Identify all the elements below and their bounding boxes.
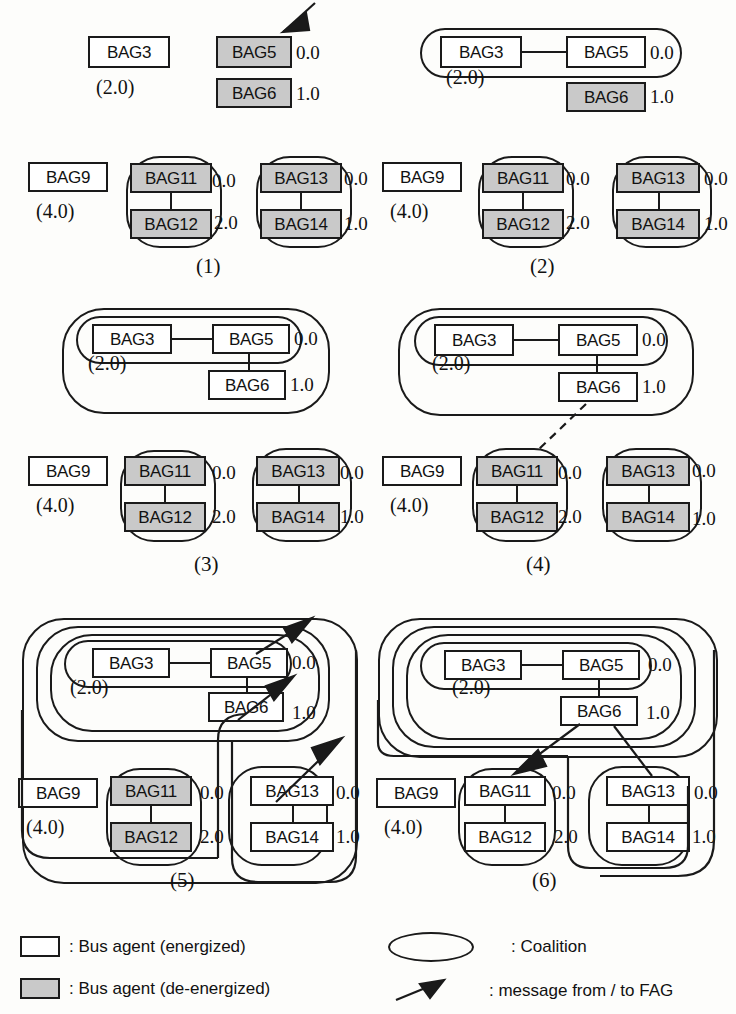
value-bag12: 2.0 bbox=[212, 506, 236, 528]
link-bag3-bag5 bbox=[522, 51, 566, 53]
legend-label-deenergized: : Bus agent (de-energized) bbox=[69, 979, 270, 999]
panel-2: BAG3 (2.0) BAG5 0.0 BAG6 1.0 BAG9 (4.0) … bbox=[368, 0, 736, 286]
panel-label-3: (3) bbox=[194, 552, 219, 577]
coalition-wrap-overlay-6 bbox=[368, 590, 736, 900]
panel-6: BAG3 (2.0) BAG5 0.0 BAG6 1.0 BAG9 (4.0) … bbox=[368, 590, 736, 900]
legend-row-deenergized: : Bus agent (de-energized) bbox=[20, 978, 270, 999]
agent-bag6: BAG6 bbox=[566, 82, 646, 112]
legend-label-energized: : Bus agent (energized) bbox=[69, 937, 246, 957]
load-value-2: (2.0) bbox=[446, 66, 484, 89]
panel-3: BAG3 (2.0) BAG5 0.0 BAG6 1.0 BAG9 (4.0) … bbox=[0, 290, 368, 588]
arrow-head-2 bbox=[266, 676, 294, 700]
value-bag14: 1.0 bbox=[704, 213, 728, 235]
value-bag13: 0.0 bbox=[340, 462, 364, 484]
load-value-2: (2.0) bbox=[88, 352, 126, 375]
value-bag14: 1.0 bbox=[340, 506, 364, 528]
agent-bag14: BAG14 bbox=[256, 502, 340, 532]
agent-bag11: BAG11 bbox=[482, 163, 564, 193]
link-bag3-bag5 bbox=[172, 338, 212, 340]
legend-label-message: : message from / to FAG bbox=[489, 981, 673, 1001]
legend-row-energized: : Bus agent (energized) bbox=[20, 936, 246, 957]
panel-5: BAG3 (2.0) BAG5 0.0 BAG6 1.0 BAG9 (4.0) … bbox=[0, 590, 368, 900]
link-bag13-bag14 bbox=[658, 193, 660, 209]
arrow-head-1 bbox=[284, 618, 312, 642]
link-bag6-bag13 bbox=[614, 726, 652, 776]
panel-4: BAG3 (2.0) BAG5 0.0 BAG6 1.0 BAG9 (4.0) … bbox=[368, 290, 736, 588]
message-arrow-overlay-1 bbox=[0, 0, 368, 286]
legend-label-coalition: : Coalition bbox=[511, 937, 587, 957]
value-bag12: 2.0 bbox=[566, 212, 590, 234]
link-bag5-bag6 bbox=[248, 354, 250, 370]
agent-bag12: BAG12 bbox=[124, 502, 206, 532]
value-bag5: 0.0 bbox=[294, 328, 318, 350]
deenergized-swatch-icon bbox=[20, 978, 60, 999]
value-bag13: 0.0 bbox=[704, 168, 728, 190]
message-arrow-icon bbox=[388, 978, 480, 1004]
coalition-ellipse-icon bbox=[388, 932, 474, 962]
agent-bag12: BAG12 bbox=[482, 209, 564, 239]
tentative-link-overlay bbox=[368, 290, 736, 588]
agent-bag5: BAG5 bbox=[566, 36, 646, 68]
dashed-link-bag6-bag11 bbox=[536, 404, 586, 452]
panel-label-2: (2) bbox=[530, 254, 555, 279]
message-arrows-overlay-5 bbox=[0, 590, 368, 900]
load-value-4: (4.0) bbox=[390, 200, 428, 223]
value-bag11: 0.0 bbox=[212, 462, 236, 484]
value-bag6: 1.0 bbox=[290, 374, 314, 396]
agent-bag11: BAG11 bbox=[124, 456, 206, 486]
link-bag13-bag14 bbox=[298, 486, 300, 502]
link-bag11-bag12 bbox=[164, 486, 166, 502]
link-bag11-bag12 bbox=[522, 193, 524, 209]
agent-bag5: BAG5 bbox=[212, 324, 290, 354]
agent-bag3: BAG3 bbox=[92, 324, 172, 354]
agent-bag9: BAG9 bbox=[28, 456, 108, 486]
agent-bag3: BAG3 bbox=[440, 36, 522, 68]
panel-1: BAG3 (2.0) BAG5 0.0 BAG6 1.0 BAG9 (4.0) … bbox=[0, 0, 368, 286]
coalition-outer-right-path bbox=[600, 650, 714, 876]
agent-bag14: BAG14 bbox=[616, 209, 700, 239]
value-bag5: 0.0 bbox=[650, 42, 674, 64]
load-value-4: (4.0) bbox=[36, 494, 74, 517]
legend: : Bus agent (energized) : Bus agent (de-… bbox=[0, 920, 736, 1014]
value-bag11: 0.0 bbox=[566, 168, 590, 190]
value-bag6: 1.0 bbox=[650, 86, 674, 108]
energized-swatch-icon bbox=[20, 936, 60, 957]
agent-bag6: BAG6 bbox=[208, 370, 286, 400]
legend-row-coalition: : Coalition bbox=[388, 932, 587, 962]
arrow-head-3 bbox=[312, 738, 342, 764]
coalition-wrap-path bbox=[378, 700, 688, 868]
agent-bag13: BAG13 bbox=[256, 456, 340, 486]
legend-row-message: : message from / to FAG bbox=[388, 978, 673, 1004]
agent-bag13: BAG13 bbox=[616, 163, 700, 193]
agent-bag9: BAG9 bbox=[382, 162, 462, 192]
